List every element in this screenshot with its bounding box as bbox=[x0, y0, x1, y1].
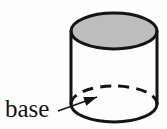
figure-canvas: base bbox=[0, 0, 167, 129]
base-label: base bbox=[5, 95, 49, 122]
cylinder-figure: base bbox=[0, 0, 167, 129]
